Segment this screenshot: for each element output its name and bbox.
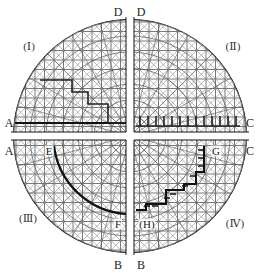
quadrant-label-1: (Ⅰ) (23, 41, 35, 52)
label-a-upper: A (5, 117, 14, 129)
label-b-left: B (114, 259, 122, 271)
quadrant-label-2: (Ⅱ) (226, 41, 241, 52)
quadrant-label-3: (Ⅲ) (19, 213, 37, 224)
point-h: (H) (138, 219, 155, 230)
point-e: E (45, 146, 54, 157)
mesh-diagram: D D B B A A C C (Ⅰ) (Ⅱ) (Ⅲ) (Ⅳ) E F G (H… (0, 0, 259, 273)
quadrant-label-4: (Ⅳ) (226, 218, 244, 229)
label-d-right: D (137, 6, 146, 18)
point-f: F (114, 219, 122, 230)
label-d-left: D (114, 6, 123, 18)
label-b-right: B (137, 259, 145, 271)
label-c-lower: C (246, 145, 254, 157)
point-g: G (211, 146, 221, 157)
label-a-lower: A (5, 145, 14, 157)
label-c-upper: C (246, 117, 254, 129)
circular-mesh (0, 0, 259, 273)
